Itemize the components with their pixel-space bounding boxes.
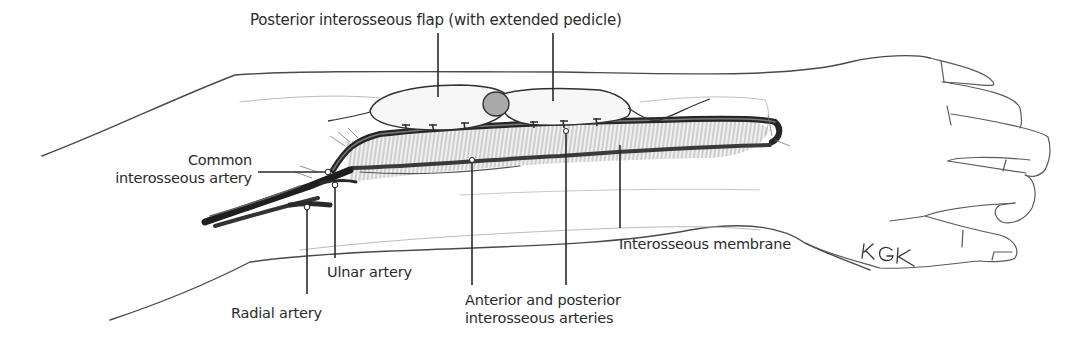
label-radial-artery: Radial artery — [231, 305, 322, 322]
label-anterior-posterior-arteries-line1: Anterior and posterior — [465, 292, 621, 309]
label-ulnar-artery: Ulnar artery — [327, 264, 412, 281]
hand-outline — [805, 58, 1050, 268]
forearm-flap-diagram: Posterior interosseous flap (with extend… — [0, 0, 1085, 349]
label-interosseous-membrane: Interosseous membrane — [619, 236, 791, 253]
label-posterior-interosseous-flap: Posterior interosseous flap (with extend… — [250, 12, 622, 29]
label-anterior-posterior-arteries-line2: interosseous arteries — [465, 310, 613, 327]
artist-signature — [862, 244, 914, 266]
label-common-interosseous-artery-line1: Common — [100, 152, 252, 169]
label-common-interosseous-artery-line2: interosseous artery — [100, 170, 252, 187]
